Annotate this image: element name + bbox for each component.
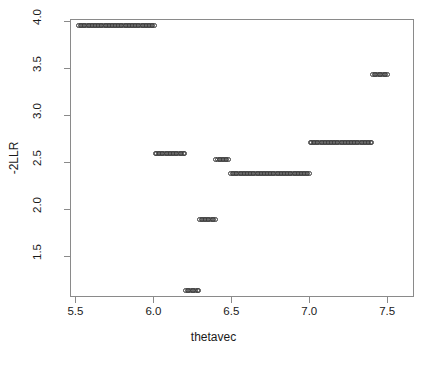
y-tick xyxy=(64,162,70,163)
y-tick xyxy=(64,256,70,257)
data-point xyxy=(182,151,187,156)
x-tick xyxy=(153,297,154,303)
y-tick-label: 2.5 xyxy=(31,150,43,166)
x-tick-label: 6.0 xyxy=(145,305,161,317)
y-tick-label: 3.5 xyxy=(31,56,43,72)
y-tick xyxy=(64,209,70,210)
x-tick xyxy=(75,297,76,303)
y-tick-label: 3.0 xyxy=(31,103,43,119)
x-axis-title: thetavec xyxy=(0,330,427,344)
y-tick-label: 4.0 xyxy=(31,9,43,25)
y-tick-label: 1.5 xyxy=(31,244,43,260)
data-point xyxy=(152,23,157,28)
data-point xyxy=(196,288,201,293)
x-tick xyxy=(309,297,310,303)
plot-title xyxy=(0,0,427,2)
data-point xyxy=(369,140,374,145)
x-tick-label: 7.5 xyxy=(379,305,395,317)
x-tick xyxy=(387,297,388,303)
chart-screenshot: 5.56.06.57.07.5 1.52.02.53.03.54.0 theta… xyxy=(0,0,427,366)
data-point xyxy=(226,157,231,162)
y-tick xyxy=(64,68,70,69)
y-tick xyxy=(64,21,70,22)
x-tick-label: 7.0 xyxy=(301,305,317,317)
plot-area xyxy=(70,19,414,297)
data-point xyxy=(385,72,390,77)
x-tick-label: 5.5 xyxy=(67,305,83,317)
x-tick-label: 6.5 xyxy=(223,305,239,317)
y-tick xyxy=(64,115,70,116)
x-tick xyxy=(231,297,232,303)
data-point xyxy=(213,217,218,222)
y-tick-label: 2.0 xyxy=(31,197,43,213)
y-axis-title: -2LLR xyxy=(7,142,21,175)
data-point xyxy=(307,171,312,176)
